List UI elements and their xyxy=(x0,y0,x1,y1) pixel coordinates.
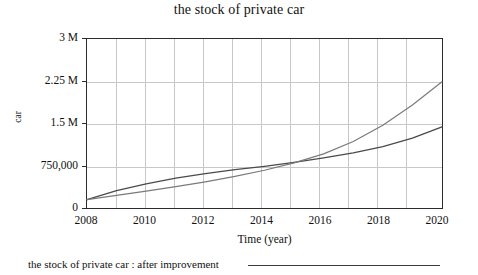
chart-figure: the stock of private car car 3 M 2.25 M … xyxy=(0,0,478,275)
y-tick-label-750k: 750,000 xyxy=(0,159,78,171)
series-line-after-improvement xyxy=(87,127,442,200)
series-line-baseline xyxy=(87,82,442,200)
chart-title: the stock of private car xyxy=(0,2,478,18)
series-container xyxy=(87,39,442,208)
legend-label: the stock of private car : after improve… xyxy=(28,258,219,270)
legend-line-swatch xyxy=(248,265,440,266)
y-tick-label-3m: 3 M xyxy=(0,31,78,43)
plot-area xyxy=(86,38,443,209)
x-tick-label-2018: 2018 xyxy=(351,214,407,226)
x-axis-title: Time (year) xyxy=(86,233,443,245)
x-tick-label-2020: 2020 xyxy=(409,214,465,226)
x-tick-label-2010: 2010 xyxy=(117,214,173,226)
x-tick-label-2014: 2014 xyxy=(234,214,290,226)
y-tick-label-225m: 2.25 M xyxy=(0,74,78,86)
x-tick-label-2016: 2016 xyxy=(292,214,348,226)
x-tick-label-2008: 2008 xyxy=(58,214,114,226)
y-tick-label-15m: 1.5 M xyxy=(0,116,78,128)
x-tick-label-2012: 2012 xyxy=(175,214,231,226)
y-tick-label-0: 0 xyxy=(0,201,78,213)
chart-legend: the stock of private car : after improve… xyxy=(28,258,478,274)
